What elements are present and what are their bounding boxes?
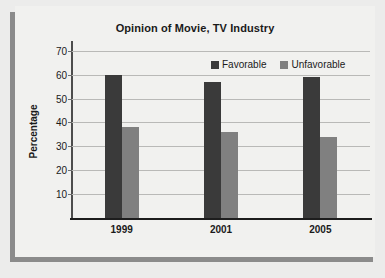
x-axis-line (70, 218, 372, 220)
y-tick-mark (68, 146, 72, 147)
y-tick-mark (68, 51, 72, 52)
bar-chart: Opinion of Movie, TV Industry Percentage… (15, 6, 375, 257)
plot-area: 10203040506070 199920012005 (72, 46, 370, 218)
gridline (72, 51, 370, 52)
panel-shadow-bottom-edge (10, 257, 373, 262)
y-axis-title: Percentage (28, 92, 39, 172)
y-tick-mark (68, 122, 72, 123)
bar-favorable-2005 (303, 77, 320, 218)
y-tick-label: 50 (56, 93, 67, 104)
y-tick-label: 60 (56, 69, 67, 80)
y-tick-label: 20 (56, 165, 67, 176)
y-tick-label: 30 (56, 141, 67, 152)
y-tick-label: 10 (56, 189, 67, 200)
y-axis-line (71, 41, 73, 218)
x-tick-label-2005: 2005 (309, 224, 331, 235)
x-tick-label-2001: 2001 (210, 224, 232, 235)
bar-unfavorable-2001 (221, 132, 238, 218)
bar-favorable-2001 (204, 82, 221, 218)
chart-panel: Opinion of Movie, TV Industry Percentage… (15, 6, 375, 257)
y-tick-mark (68, 194, 72, 195)
chart-screenshot: Opinion of Movie, TV Industry Percentage… (0, 0, 385, 278)
y-tick-mark (68, 170, 72, 171)
bar-favorable-1999 (105, 75, 122, 218)
y-tick-mark (68, 99, 72, 100)
bar-unfavorable-2005 (320, 137, 337, 218)
chart-title: Opinion of Movie, TV Industry (15, 22, 375, 34)
x-tick-label-1999: 1999 (111, 224, 133, 235)
y-tick-label: 70 (56, 45, 67, 56)
y-tick-mark (68, 75, 72, 76)
bar-unfavorable-1999 (122, 127, 139, 218)
y-tick-label: 40 (56, 117, 67, 128)
